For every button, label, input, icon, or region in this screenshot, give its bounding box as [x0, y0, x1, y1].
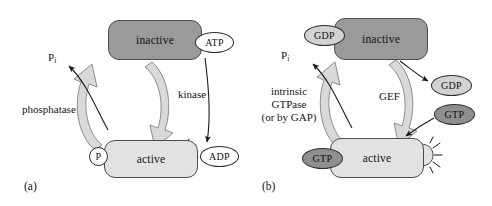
label-intrinsic-gtpase: intrinsic GTPase (or by GAP): [252, 85, 326, 124]
token-atp[interactable]: ATP: [195, 32, 234, 53]
token-bound-phosphate[interactable]: P: [89, 147, 108, 166]
token-bound-phosphate-label: P: [96, 152, 102, 162]
arrow-nucleotide-exchange: [389, 60, 417, 146]
node-active[interactable]: active: [330, 138, 424, 178]
arrow-atp-to-adp: [205, 58, 209, 142]
node-inactive-label: inactive: [362, 33, 400, 45]
panel-b-gtpase-cycle: inactive active GDP GDP GTP GTP Pi GEF i…: [246, 0, 492, 206]
label-kinase: kinase: [178, 88, 206, 100]
label-intrinsic-gtpase-line2: GTPase: [252, 98, 326, 111]
label-phosphatase: phosphatase: [22, 103, 76, 115]
label-intrinsic-gtpase-line1: intrinsic: [252, 85, 326, 98]
node-inactive[interactable]: inactive: [108, 20, 202, 60]
token-gdp-bound-label: GDP: [314, 31, 335, 41]
token-gtp-incoming[interactable]: GTP: [434, 104, 475, 125]
panel-b-tag: (b): [262, 180, 275, 192]
label-pi-subscript: i: [287, 54, 289, 63]
node-inactive-label: inactive: [136, 34, 174, 46]
token-gdp-released[interactable]: GDP: [431, 75, 472, 96]
token-adp-label: ADP: [209, 152, 230, 162]
label-inorganic-phosphate: Pi: [281, 49, 289, 61]
node-active-label: active: [363, 152, 392, 164]
token-adp[interactable]: ADP: [200, 146, 239, 167]
label-intrinsic-gtpase-line3: (or by GAP): [252, 111, 326, 124]
node-inactive[interactable]: inactive: [334, 18, 428, 60]
token-atp-label: ATP: [205, 38, 224, 48]
arrow-phosphorylation: [145, 62, 173, 148]
label-inorganic-phosphate: Pi: [48, 51, 56, 63]
token-gtp-bound[interactable]: GTP: [302, 148, 343, 169]
token-gtp-bound-label: GTP: [313, 154, 333, 164]
figure-root: inactive active ATP ADP P Pi kinase phos…: [0, 0, 492, 206]
panel-a-phosphorylation-cycle: inactive active ATP ADP P Pi kinase phos…: [0, 0, 246, 206]
panel-a-tag: (a): [24, 180, 37, 192]
node-active[interactable]: active: [104, 140, 198, 178]
label-pi-subscript: i: [54, 56, 56, 65]
token-gtp-incoming-label: GTP: [445, 110, 465, 120]
token-gdp-bound[interactable]: GDP: [304, 25, 345, 46]
token-gdp-released-label: GDP: [441, 81, 462, 91]
label-gef: GEF: [379, 90, 400, 102]
node-active-label: active: [137, 153, 166, 165]
